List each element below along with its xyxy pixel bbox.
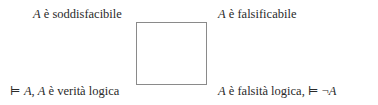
square-box <box>136 22 207 85</box>
entails-symbol: ⊨ <box>10 84 24 98</box>
text: è soddisfacibile <box>41 7 122 21</box>
var-a: A <box>218 84 226 98</box>
label-logical-falsity: A è falsità logica, ⊨ ¬A <box>218 84 336 98</box>
label-satisfiable: A è soddisfacibile <box>33 7 122 21</box>
text: è falsità logica, <box>226 84 308 98</box>
entails-not-symbol: ⊨ ¬ <box>308 84 329 98</box>
text: è falsificabile <box>226 7 297 21</box>
label-logical-truth: ⊨ A, A è verità logica <box>10 84 119 98</box>
var-a: A <box>33 7 41 21</box>
var-a: A <box>24 84 32 98</box>
var-a: A <box>329 84 337 98</box>
text: è verità logica <box>45 84 119 98</box>
var-a: A <box>218 7 226 21</box>
label-falsifiable: A è falsificabile <box>218 7 296 21</box>
